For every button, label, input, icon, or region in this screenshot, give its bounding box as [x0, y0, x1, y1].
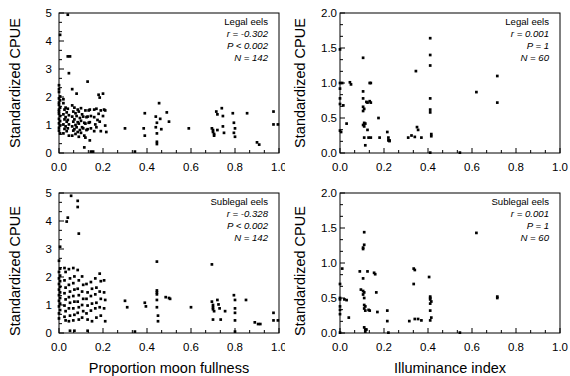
data-point — [85, 312, 88, 315]
data-point — [82, 115, 85, 118]
data-point — [90, 281, 93, 284]
data-point — [347, 316, 350, 319]
data-point — [84, 122, 87, 125]
data-point — [429, 319, 432, 322]
data-point — [72, 319, 75, 322]
y-axis-title: Standardized CPUE — [292, 206, 308, 336]
data-point — [64, 310, 67, 313]
x-axis-title: Proportion moon fullness — [89, 360, 249, 376]
data-point — [99, 297, 102, 300]
data-point — [376, 311, 379, 314]
data-point — [363, 136, 366, 139]
data-point — [75, 115, 78, 118]
data-point — [245, 299, 248, 302]
data-point — [58, 84, 61, 87]
data-point — [59, 245, 62, 248]
data-point — [73, 313, 76, 316]
data-point — [234, 135, 237, 138]
y-tick-label: 0.0 — [321, 327, 337, 339]
data-point — [63, 279, 66, 282]
data-point — [95, 316, 98, 319]
data-point — [58, 259, 61, 262]
data-point — [103, 279, 106, 282]
y-axis-title-group-top-right: Standardized CPUE — [292, 18, 308, 148]
data-point — [156, 306, 159, 309]
data-point — [90, 115, 93, 118]
x-tick-label: 0.0 — [51, 161, 67, 173]
annotation-group-label: Legal eels — [505, 16, 549, 27]
data-point — [76, 287, 79, 290]
x-tick-label: 1.0 — [552, 341, 568, 353]
data-point — [81, 316, 84, 319]
data-point — [58, 88, 61, 91]
data-point — [72, 307, 75, 310]
data-point — [71, 125, 74, 128]
data-point — [91, 287, 94, 290]
data-point — [369, 101, 372, 104]
data-point — [59, 291, 62, 294]
data-point — [143, 134, 146, 137]
data-point — [71, 134, 74, 137]
data-point — [277, 319, 280, 322]
x-tick-label: 0.8 — [508, 341, 524, 353]
data-point — [339, 97, 342, 100]
data-point — [388, 140, 391, 143]
data-point — [407, 136, 410, 139]
data-point — [82, 283, 85, 286]
y-tick-label: 1 — [46, 299, 52, 311]
data-point — [496, 75, 499, 78]
x-tick-label: 0.4 — [420, 341, 437, 353]
data-point — [339, 309, 342, 312]
data-point — [86, 80, 89, 83]
data-point — [216, 299, 219, 302]
annotation-block-bottom-right: Sublegal eels r = 0.001 P = 1 N = 60 — [491, 196, 549, 243]
data-point — [362, 110, 365, 113]
data-point — [58, 305, 61, 308]
data-point — [104, 124, 107, 127]
data-points-bottom-right — [339, 231, 499, 334]
data-point — [386, 320, 389, 323]
panel-sublegal-eels-moon-fullness: Standardized CPUE 5 4 3 2 1 0 0.0 0.2 0.… — [0, 188, 285, 376]
data-point — [430, 135, 433, 138]
data-point — [417, 318, 420, 321]
data-point — [64, 271, 67, 274]
data-point — [66, 13, 69, 16]
data-point — [97, 112, 100, 115]
data-point — [68, 320, 71, 323]
data-point — [429, 111, 432, 114]
data-point — [429, 108, 432, 111]
scatter-plot-svg-top-right: Standardized CPUE 2.0 1.5 1.0 0.5 0.0 0.… — [285, 0, 570, 188]
data-point — [223, 131, 226, 134]
annotation-block-top-right: Legal eels r = 0.001 P = 1 N = 60 — [505, 16, 549, 63]
data-point — [126, 306, 129, 309]
data-point — [158, 102, 161, 105]
data-point — [99, 314, 102, 317]
data-point — [80, 131, 83, 134]
data-point — [362, 248, 365, 251]
panel-legal-eels-illuminance: Standardized CPUE 2.0 1.5 1.0 0.5 0.0 0.… — [285, 0, 570, 188]
data-point — [66, 107, 69, 110]
data-point — [86, 318, 89, 321]
data-point — [386, 309, 389, 312]
annotation-r-value: r = 0.001 — [511, 28, 549, 39]
data-point — [93, 130, 96, 133]
data-point — [99, 280, 102, 283]
data-point — [79, 129, 82, 132]
data-point — [99, 109, 102, 112]
data-point — [98, 306, 101, 309]
data-point — [362, 277, 365, 280]
data-point — [386, 131, 389, 134]
data-point — [58, 312, 61, 315]
data-point — [58, 129, 61, 132]
data-point — [217, 303, 220, 306]
data-point — [68, 114, 71, 117]
data-point — [233, 131, 236, 134]
data-point — [459, 151, 462, 154]
data-point — [59, 302, 62, 305]
y-tick-label: 2.0 — [321, 7, 337, 19]
data-point — [75, 92, 78, 95]
x-tick-label: 0.6 — [183, 341, 199, 353]
data-point — [272, 110, 275, 113]
data-point — [62, 98, 65, 101]
x-tick-labels-top-right: 0.0 0.2 0.4 0.6 0.8 1.0 — [332, 161, 568, 173]
